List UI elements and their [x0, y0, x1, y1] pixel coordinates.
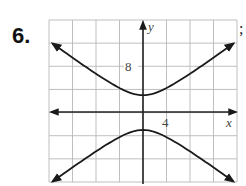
- y-tick-label-8: 8: [125, 59, 132, 74]
- x-axis-label: x: [225, 115, 232, 130]
- x-tick-label-4: 4: [162, 115, 169, 130]
- y-axis-label: y: [146, 19, 154, 34]
- hyperbola-graph: 8 4 x y: [0, 0, 246, 186]
